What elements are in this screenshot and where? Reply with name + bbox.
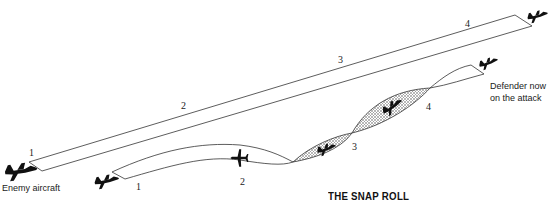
enemy-position-1: 1 — [29, 148, 34, 158]
enemy-position-4: 4 — [465, 19, 470, 29]
defender-position-2: 2 — [240, 177, 245, 187]
enemy-position-2: 2 — [181, 101, 186, 111]
enemy-position-3: 3 — [338, 55, 343, 65]
enemy-aircraft-end-icon — [526, 8, 549, 23]
defender-label-line2: on the attack — [490, 93, 542, 104]
defender-position-4: 4 — [426, 102, 431, 112]
diagram-graphics — [0, 0, 551, 205]
diagram-title: THE SNAP ROLL — [328, 190, 409, 202]
enemy-aircraft-icon — [4, 161, 38, 182]
enemy-path-ribbon — [29, 15, 532, 171]
defender-aircraft-attack-icon — [478, 55, 500, 71]
defender-position-1: 1 — [136, 182, 141, 192]
enemy-aircraft-label: Enemy aircraft — [2, 183, 60, 194]
defender-aircraft-start-icon — [94, 173, 121, 190]
defender-aircraft-pos2-icon — [230, 149, 248, 167]
snap-roll-diagram: 1 2 3 4 1 2 3 4 Enemy aircraft Defender … — [0, 0, 551, 205]
defender-position-3: 3 — [352, 142, 357, 152]
defender-path-ribbon — [112, 65, 484, 179]
defender-label-line1: Defender now — [490, 81, 546, 92]
